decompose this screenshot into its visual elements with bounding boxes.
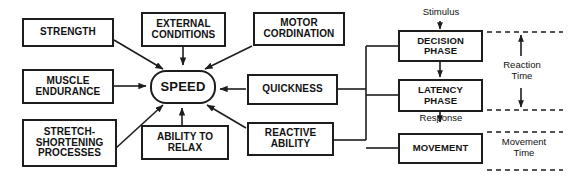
node-latency-phase[interactable]: LATENCY PHASE bbox=[398, 79, 483, 112]
node-speed-label: SPEED bbox=[160, 80, 205, 94]
node-ability-to-relax[interactable]: ABILITY TO RELAX bbox=[141, 125, 229, 160]
node-muscle-endurance-label: MUSCLE ENDURANCE bbox=[36, 76, 101, 98]
label-stimulus: Stimulus bbox=[405, 7, 477, 18]
node-strength[interactable]: STRENGTH bbox=[22, 18, 114, 47]
node-reactive-ability[interactable]: REACTIVE ABILITY bbox=[247, 122, 334, 156]
node-quickness-label: QUICKNESS bbox=[262, 84, 322, 95]
node-stretch-shortening-processes-label: STRETCH- SHORTENING PROCESSES bbox=[36, 127, 104, 159]
label-movement-time: Movement Time bbox=[493, 137, 555, 158]
node-external-conditions[interactable]: EXTERNAL CONDITIONS bbox=[141, 12, 226, 47]
node-latency-phase-label: LATENCY PHASE bbox=[418, 85, 463, 106]
node-decision-phase-label: DECISION PHASE bbox=[417, 36, 464, 57]
node-stretch-shortening-processes[interactable]: STRETCH- SHORTENING PROCESSES bbox=[22, 119, 117, 167]
node-decision-phase[interactable]: DECISION PHASE bbox=[398, 30, 483, 62]
node-muscle-endurance[interactable]: MUSCLE ENDURANCE bbox=[22, 69, 114, 104]
node-movement[interactable]: MOVEMENT bbox=[398, 133, 483, 164]
label-response: Response bbox=[405, 113, 477, 124]
node-speed[interactable]: SPEED bbox=[150, 70, 216, 104]
node-external-conditions-label: EXTERNAL CONDITIONS bbox=[152, 19, 216, 41]
label-reaction-time: Reaction Time bbox=[493, 60, 551, 81]
diagram-canvas: STRENGTH EXTERNAL CONDITIONS MOTOR CORDI… bbox=[0, 0, 569, 179]
node-quickness[interactable]: QUICKNESS bbox=[247, 74, 338, 105]
node-motor-cordination-label: MOTOR CORDINATION bbox=[264, 18, 335, 40]
node-motor-cordination[interactable]: MOTOR CORDINATION bbox=[253, 12, 345, 46]
node-ability-to-relax-label: ABILITY TO RELAX bbox=[157, 132, 213, 154]
node-strength-label: STRENGTH bbox=[40, 27, 96, 38]
edge-motor-speed bbox=[205, 46, 252, 69]
node-movement-label: MOVEMENT bbox=[413, 143, 469, 153]
node-reactive-ability-label: REACTIVE ABILITY bbox=[265, 128, 316, 150]
